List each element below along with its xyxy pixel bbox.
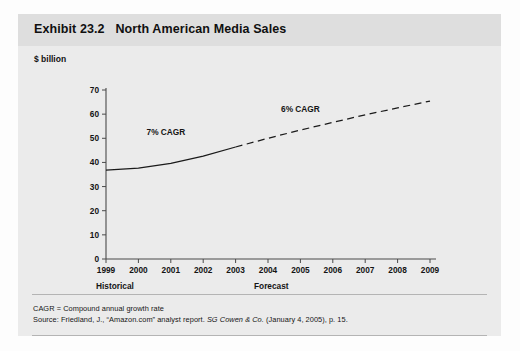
x-tick-label: 2003 (226, 265, 245, 275)
x-tick-label: 2005 (291, 265, 310, 275)
x-tick-label: 2001 (162, 265, 181, 275)
footnote-area: CAGR = Compound annual growth rate Sourc… (18, 294, 501, 336)
x-tick-label: 2002 (194, 265, 213, 275)
footnote-cagr-definition: CAGR = Compound annual growth rate (33, 304, 164, 313)
exhibit-title: Exhibit 23.2 North American Media Sales (34, 22, 286, 36)
exhibit-page: Exhibit 23.2 North American Media Sales … (0, 0, 520, 351)
y-tick-label: 10 (90, 230, 100, 240)
series-line-forecast (236, 101, 430, 147)
cagr-annotation: 6% CAGR (281, 104, 320, 114)
chart-body: $ billion 010203040506070 19992000200120… (18, 46, 501, 294)
footnote-source-suffix: (January 4, 2005), p. 15. (264, 315, 348, 324)
x-tick-label: 2008 (388, 265, 407, 275)
footnote-divider-top (32, 294, 487, 295)
y-tick-label: 60 (90, 109, 100, 119)
y-tick-label: 50 (90, 133, 100, 143)
x-tick-label: 2000 (129, 265, 148, 275)
y-tick-label: 70 (90, 85, 100, 95)
period-label-historical: Historical (96, 281, 134, 291)
footnote-source-publisher: SG Cowen & Co. (207, 315, 264, 324)
x-tick-label: 2009 (421, 265, 440, 275)
plot-area: 010203040506070 199920002001200220032004… (18, 46, 501, 294)
x-tick-label: 2006 (324, 265, 343, 275)
exhibit-panel: Exhibit 23.2 North American Media Sales … (18, 14, 501, 336)
period-labels: HistoricalForecast (96, 281, 289, 291)
footnote-source-prefix: Source: Friedland, J., “Amazon.com” anal… (33, 315, 207, 324)
y-tick-label: 30 (90, 182, 100, 192)
series-line-historical (106, 147, 236, 170)
line-chart-svg: 010203040506070 199920002001200220032004… (18, 46, 501, 294)
footnote-source: Source: Friedland, J., “Amazon.com” anal… (33, 315, 348, 324)
x-tick-label: 2004 (259, 265, 278, 275)
x-tick-label: 2007 (356, 265, 375, 275)
x-tick-label: 1999 (97, 265, 116, 275)
cagr-annotation: 7% CAGR (147, 127, 186, 137)
y-tick-label: 0 (94, 254, 99, 264)
period-label-forecast: Forecast (254, 281, 289, 291)
y-tick-label: 20 (90, 206, 100, 216)
y-axis-ticks: 010203040506070 (90, 85, 106, 264)
x-axis-ticks: 1999200020012002200320042005200620072008… (97, 259, 440, 275)
y-tick-label: 40 (90, 157, 100, 167)
exhibit-title-band: Exhibit 23.2 North American Media Sales (18, 14, 501, 46)
footnote-divider-bottom (32, 335, 487, 336)
